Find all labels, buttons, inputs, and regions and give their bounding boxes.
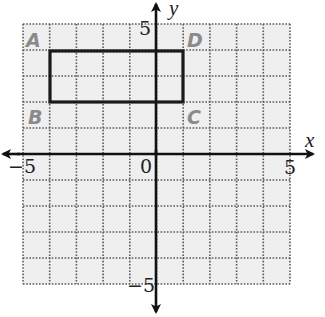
vertex-label-a: A [24, 29, 41, 51]
x-min-label: −5 [8, 155, 36, 177]
x-max-label: 5 [284, 156, 296, 178]
y-axis-label: y [167, 0, 179, 20]
vertex-label-c: C [187, 106, 201, 128]
y-max-label: 5 [139, 17, 151, 39]
coordinate-plane: x y 0 −5 5 5 −5 A B C D [0, 0, 325, 317]
y-min-label: −5 [127, 274, 155, 296]
vertex-label-b: B [28, 106, 42, 128]
x-axis-label: x [304, 128, 315, 152]
vertex-label-d: D [187, 29, 203, 51]
origin-label: 0 [140, 155, 152, 177]
